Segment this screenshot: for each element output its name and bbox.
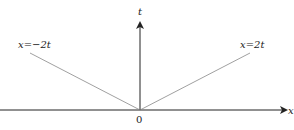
- line-x-2t: [140, 53, 250, 110]
- t-axis-label: t: [138, 6, 143, 17]
- label-x-2t: x=2t: [240, 39, 265, 50]
- x-axis-label: x: [288, 105, 294, 116]
- line-x-minus-2t: [30, 53, 140, 110]
- characteristics-diagram: t x 0 x=−2t x=2t: [0, 0, 294, 130]
- label-x-minus-2t: x=−2t: [18, 39, 52, 50]
- origin-label: 0: [136, 114, 142, 125]
